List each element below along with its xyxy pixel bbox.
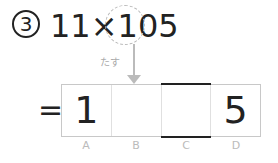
cell-labels: A B C D	[61, 139, 261, 152]
cell-label-b: B	[111, 139, 161, 152]
arrow-head-icon	[127, 75, 141, 84]
answer-cell-d[interactable]: 5	[211, 85, 260, 136]
arrow-down-icon	[133, 44, 135, 76]
equals-sign: =	[38, 92, 63, 128]
cell-label-d: D	[211, 139, 261, 152]
problem-number-badge: 3	[12, 10, 40, 38]
cell-label-a: A	[61, 139, 111, 152]
answer-cell-a[interactable]: 1	[62, 85, 112, 136]
hint-dashed-circle	[105, 5, 145, 45]
answer-cell-b[interactable]	[112, 85, 162, 136]
answer-box-row: 1 5	[61, 84, 261, 137]
answer-cell-c[interactable]	[162, 85, 212, 136]
hint-label: たす	[100, 54, 120, 69]
cell-label-c: C	[161, 139, 211, 152]
